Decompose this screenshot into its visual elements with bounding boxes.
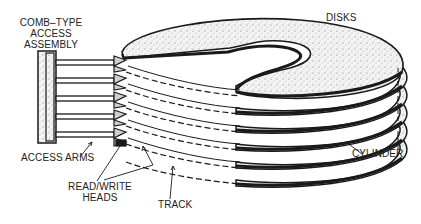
label-rw-line1: READ/WRITE — [68, 181, 132, 192]
access-arms — [56, 60, 114, 137]
label-track: TRACK — [158, 199, 192, 210]
label-comb-line3: ASSEMBLY — [18, 39, 84, 50]
leader-track — [170, 166, 173, 199]
disk-5 — [236, 118, 407, 169]
label-read-write-heads: READ/WRITE HEADS — [68, 181, 132, 203]
label-access-arms: ACCESS ARMS — [21, 152, 94, 163]
comb-access-assembly — [38, 51, 126, 146]
label-rw-line2: HEADS — [68, 192, 132, 203]
read-write-heads — [114, 56, 126, 146]
disk-4 — [236, 100, 407, 151]
disk-1-top — [122, 19, 403, 99]
disk-6 — [236, 136, 407, 187]
disk-stack — [122, 19, 407, 187]
label-cylinder: CYLINDER — [352, 148, 403, 159]
label-comb-line1: COMB–TYPE — [18, 17, 84, 28]
label-comb-line2: ACCESS — [18, 28, 84, 39]
label-disks: DISKS — [326, 12, 357, 23]
label-comb-type-access-assembly: COMB–TYPE ACCESS ASSEMBLY — [18, 17, 84, 50]
